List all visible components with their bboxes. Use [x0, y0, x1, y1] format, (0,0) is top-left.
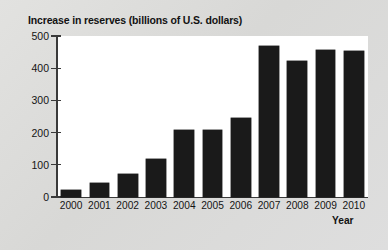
bar — [203, 130, 223, 197]
x-axis-tick-label: 2006 — [229, 200, 252, 211]
bar — [174, 130, 194, 197]
chart-figure: Increase in reserves (billions of U.S. d… — [0, 0, 388, 250]
bar — [316, 50, 336, 197]
x-axis-tick-label: 2008 — [286, 200, 309, 211]
bar — [287, 61, 307, 197]
x-axis-tick-label: 2010 — [343, 200, 366, 211]
y-axis-tick-label: 400 — [9, 62, 49, 74]
x-axis-tick-label: 2001 — [88, 200, 111, 211]
y-axis-labels: 0100200300400500 — [0, 0, 49, 250]
bar — [61, 190, 81, 197]
bar — [118, 174, 138, 197]
bar — [146, 159, 166, 197]
bar — [90, 183, 110, 197]
x-axis-tick-label: 2007 — [258, 200, 281, 211]
x-axis-title: Year — [332, 215, 354, 226]
x-axis-tick-label: 2009 — [314, 200, 337, 211]
y-axis-tick-label: 500 — [9, 30, 49, 42]
y-axis-tick-label: 300 — [9, 94, 49, 106]
x-axis-tick-label: 2004 — [173, 200, 196, 211]
y-axis-tick-label: 100 — [9, 159, 49, 171]
x-axis-tick-label: 2000 — [60, 200, 83, 211]
bar-series — [57, 36, 368, 197]
bar — [259, 46, 279, 197]
bar — [231, 118, 251, 197]
x-axis-tick-label: 2002 — [116, 200, 139, 211]
bar — [344, 51, 364, 197]
y-axis-tick-label: 200 — [9, 127, 49, 139]
y-axis-tick-label: 0 — [9, 191, 49, 203]
x-axis-labels: 2000200120022003200420052006200720082009… — [57, 200, 368, 216]
x-axis-tick-label: 2003 — [145, 200, 168, 211]
x-axis-tick-label: 2005 — [201, 200, 224, 211]
chart-title: Increase in reserves (billions of U.S. d… — [28, 14, 242, 26]
